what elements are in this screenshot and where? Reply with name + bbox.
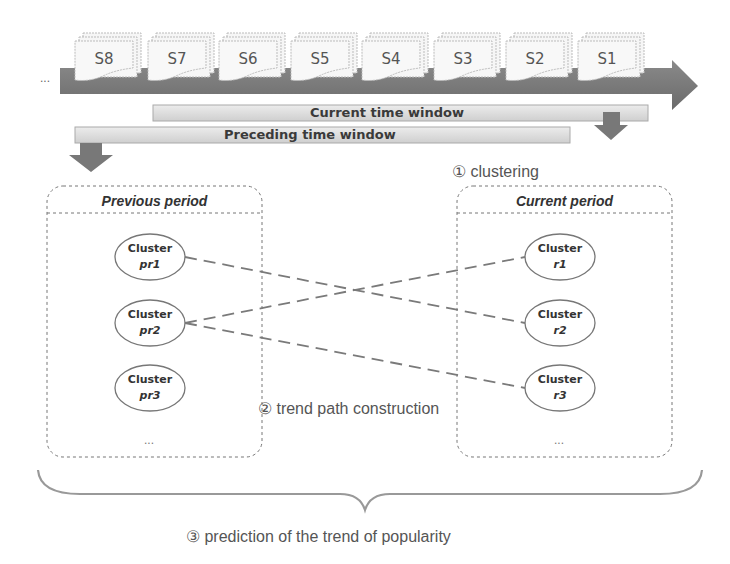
grouping-brace xyxy=(38,470,702,510)
trend-links xyxy=(185,257,525,388)
cluster-r3: Cluster r3 xyxy=(525,365,595,411)
slide-label-s7: S7 xyxy=(152,50,202,68)
slide-label-s1: S1 xyxy=(582,50,632,68)
cluster-pr1: Cluster pr1 xyxy=(115,234,185,280)
trend-link-pr2-r3 xyxy=(185,323,525,388)
timeline-leading-ellipsis: ... xyxy=(40,71,50,85)
slide-label-s8: S8 xyxy=(79,50,129,68)
slide-label-s5: S5 xyxy=(295,50,345,68)
diagram-canvas xyxy=(0,0,730,564)
slide-label-s3: S3 xyxy=(438,50,488,68)
step-prediction-label: ③ prediction of the trend of popularity xyxy=(186,527,451,546)
current-time-window-label: Current time window xyxy=(310,105,464,120)
cluster-name: Cluster xyxy=(525,372,595,388)
step-trend-path-label: ② trend path construction xyxy=(258,399,439,418)
cluster-r1: Cluster r1 xyxy=(525,234,595,280)
cluster-name: Cluster xyxy=(525,241,595,257)
cluster-id: pr2 xyxy=(115,323,185,339)
slide-label-s4: S4 xyxy=(366,50,416,68)
cluster-id: r2 xyxy=(525,323,595,339)
cluster-r2: Cluster r2 xyxy=(525,300,595,346)
cluster-id: r1 xyxy=(525,257,595,273)
slide-label-s6: S6 xyxy=(223,50,273,68)
cluster-name: Cluster xyxy=(525,307,595,323)
current-period-more: ... xyxy=(554,433,564,447)
cluster-id: pr3 xyxy=(115,388,185,404)
current-period-title: Current period xyxy=(457,193,672,209)
cluster-name: Cluster xyxy=(115,372,185,388)
cluster-name: Cluster xyxy=(115,307,185,323)
previous-period-title: Previous period xyxy=(47,193,262,209)
preceding-time-window-label: Preceding time window xyxy=(224,127,396,142)
cluster-name: Cluster xyxy=(115,241,185,257)
cluster-id: pr1 xyxy=(115,257,185,273)
down-arrow-icon-left xyxy=(69,143,113,172)
step-clustering-label: ① clustering xyxy=(452,162,539,181)
cluster-pr3: Cluster pr3 xyxy=(115,365,185,411)
previous-period-more: ... xyxy=(144,433,154,447)
cluster-pr2: Cluster pr2 xyxy=(115,300,185,346)
cluster-id: r3 xyxy=(525,388,595,404)
slide-label-s2: S2 xyxy=(510,50,560,68)
